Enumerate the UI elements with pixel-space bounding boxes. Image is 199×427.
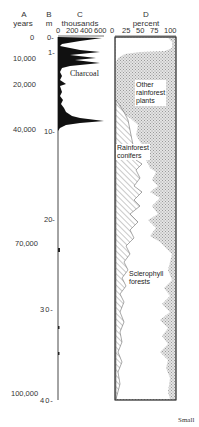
label-scler-line2: forests bbox=[129, 278, 163, 286]
label-other-line1: Other bbox=[136, 81, 165, 89]
label-other-line2: rainforest bbox=[136, 89, 165, 97]
label-other-rainforest: Other rainforest plants bbox=[135, 80, 166, 106]
label-scler-line1: Sclerophyll bbox=[129, 270, 163, 278]
label-sclerophyll: Sclerophyll forests bbox=[129, 270, 163, 286]
label-other-line3: plants bbox=[136, 97, 165, 105]
label-conifers-line2: conifers bbox=[117, 152, 149, 160]
size-label: Small bbox=[178, 416, 194, 424]
chart-graphics bbox=[0, 0, 199, 427]
label-conifers-line1: Rainforest bbox=[117, 144, 149, 152]
label-charcoal: Charcoal bbox=[69, 70, 100, 78]
charcoal-area bbox=[58, 37, 104, 400]
label-rainforest-conifers: Rainforest conifers bbox=[116, 144, 150, 160]
